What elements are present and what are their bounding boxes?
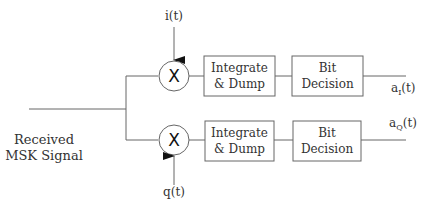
i-output-label: aI(t): [391, 81, 416, 97]
q-integrator-line1: Integrate: [211, 126, 268, 140]
quadrature-branch: X q(t) Integrate & Dump Bit Decision aQ(…: [126, 116, 417, 199]
i-integrate-dump-block: Integrate & Dump: [204, 56, 275, 96]
input-label-line2: MSK Signal: [5, 148, 83, 163]
q-bit-decision-block: Bit Decision: [293, 121, 361, 161]
q-reference-label: q(t): [163, 185, 185, 199]
q-multiplier: X: [159, 125, 189, 155]
q-output-label: aQ(t): [389, 116, 417, 132]
q-integrate-dump-block: Integrate & Dump: [205, 121, 274, 161]
i-multiplier: X: [159, 61, 189, 91]
q-integrator-line2: & Dump: [214, 142, 265, 156]
multiply-icon: X: [168, 130, 180, 150]
input-label-line1: Received: [14, 132, 74, 147]
msk-demodulator-diagram: Received MSK Signal i(t) X Integrate & D…: [0, 0, 425, 210]
i-integrator-line2: & Dump: [214, 77, 265, 91]
i-integrator-line1: Integrate: [211, 61, 268, 75]
i-bit-decision-block: Bit Decision: [292, 56, 363, 96]
i-decision-line2: Decision: [301, 77, 354, 91]
i-reference-label: i(t): [165, 9, 183, 23]
i-decision-line1: Bit: [319, 61, 337, 75]
in-phase-branch: i(t) X Integrate & Dump Bit Decision aI(…: [126, 9, 416, 97]
q-decision-line1: Bit: [318, 126, 336, 140]
input-section: Received MSK Signal: [5, 76, 126, 163]
multiply-icon: X: [168, 66, 180, 86]
q-decision-line2: Decision: [301, 142, 354, 156]
